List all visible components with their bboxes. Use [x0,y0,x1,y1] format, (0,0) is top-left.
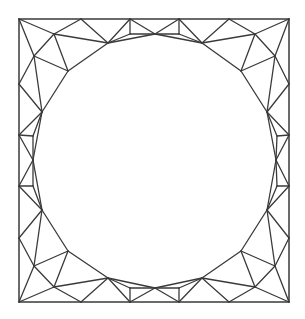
triangular-mesh-diagram [0,0,305,319]
mesh-edge [19,160,33,186]
hole-boundary-edge [155,278,202,288]
mesh-edge [54,19,81,34]
hole-boundary-edge [241,71,267,112]
hole-boundary-edge [202,43,241,71]
mesh-edge [276,160,289,186]
mesh-edge [34,266,54,287]
mesh-edge [179,278,202,288]
mesh-edge [19,135,33,160]
mesh-edge [19,56,34,84]
mesh-edge [19,238,34,266]
mesh-edge [54,287,81,302]
mesh-edge [277,135,289,136]
mesh-edge [255,266,275,287]
mesh-edge [276,136,277,160]
circular-hole-boundary [33,34,276,288]
hole-boundary-edge [68,43,108,71]
mesh-edge [267,112,277,136]
hole-boundary-edge [42,71,68,112]
mesh-edge [275,238,289,266]
mesh-edge [276,135,289,160]
hole-boundary-edge [202,251,241,278]
square-outer-boundary [19,19,289,302]
mesh-edge [275,56,289,84]
hole-boundary-edge [68,251,108,278]
mesh-interior-edges [19,19,289,302]
mesh-edge [229,19,255,34]
mesh-edge [19,135,33,136]
mesh-edge [130,288,155,302]
hole-boundary-edge [42,210,68,251]
mesh-edge [255,34,275,56]
mesh-edge [276,160,277,186]
mesh-edge [33,186,42,210]
mesh-edge [34,34,54,56]
hole-boundary-edge [241,210,267,251]
mesh-edge [155,19,179,34]
mesh-edge [229,287,255,302]
mesh-edge [155,288,179,302]
mesh-edge [130,19,155,34]
mesh-edge [108,278,130,288]
